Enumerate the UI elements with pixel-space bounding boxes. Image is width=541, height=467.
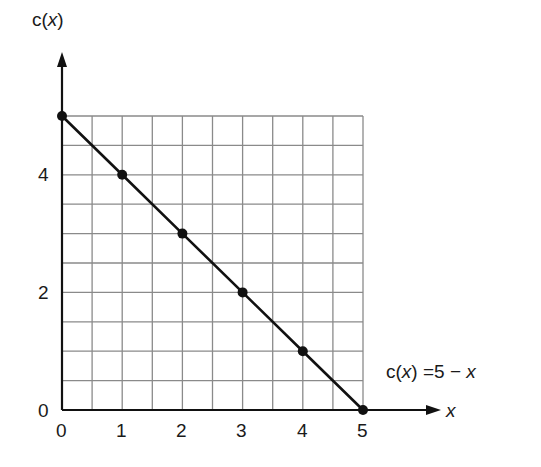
y-axis-title: c(x) — [32, 9, 64, 30]
data-point — [298, 346, 308, 356]
x-tick-4: 4 — [297, 420, 308, 441]
data-point — [177, 229, 187, 239]
y-axis — [57, 52, 67, 410]
y-tick-0: 0 — [38, 400, 49, 421]
x-axis-title: x — [445, 400, 457, 421]
data-point — [238, 287, 248, 297]
y-tick-4: 4 — [38, 164, 49, 185]
equation-label: c(x) =5 − x — [386, 361, 477, 382]
y-axis-arrow-icon — [57, 52, 67, 67]
data-point — [117, 170, 127, 180]
data-point — [57, 111, 67, 121]
x-tick-3: 3 — [236, 420, 247, 441]
x-axis — [62, 405, 441, 415]
x-tick-5: 5 — [357, 420, 368, 441]
y-tick-2: 2 — [38, 282, 49, 303]
data-point — [358, 405, 368, 415]
chart-canvas: c(x) x 0 2 4 0 1 2 3 4 5 c(x) =5 − x — [0, 0, 541, 467]
x-tick-2: 2 — [176, 420, 187, 441]
x-tick-1: 1 — [116, 420, 127, 441]
x-tick-0: 0 — [56, 420, 67, 441]
x-axis-arrow-icon — [426, 405, 441, 415]
